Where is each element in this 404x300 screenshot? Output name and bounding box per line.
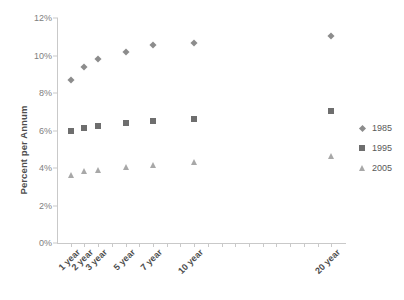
x-axis-tick-mark: [84, 243, 85, 247]
x-axis-tick-mark: [208, 243, 209, 247]
data-point-1985-5y: [122, 48, 129, 55]
x-axis-tick-mark: [139, 243, 140, 247]
y-axis-tick-label: 2%: [18, 201, 52, 211]
y-axis-tick-label: 8%: [18, 88, 52, 98]
data-point-1995-1y: [68, 128, 74, 134]
data-point-2005-5y: [123, 164, 129, 170]
x-axis-tick-mark: [222, 243, 223, 247]
chart-legend: 1985 1995 2005: [356, 118, 392, 178]
data-point-1995-5y: [123, 120, 129, 126]
legend-label: 2005: [372, 163, 392, 173]
data-point-1995-20y: [328, 108, 334, 114]
x-axis-tick-mark: [331, 243, 332, 247]
data-point-1995-2y: [81, 125, 87, 131]
y-axis-tick-label: 0%: [18, 238, 52, 248]
x-axis-tick-mark: [194, 243, 195, 247]
x-axis-tick-mark: [276, 243, 277, 247]
yield-curve-scatter-chart: Percent per Annum 0%2%4%6%8%10%12% 1 yea…: [0, 0, 404, 300]
legend-item-1995[interactable]: 1995: [356, 138, 392, 158]
square-icon: [356, 142, 368, 154]
data-point-1995-10y: [191, 116, 197, 122]
data-point-1985-1y: [67, 76, 74, 83]
legend-item-1985[interactable]: 1985: [356, 118, 392, 138]
y-axis-tick-label: 6%: [18, 126, 52, 136]
x-axis-tick-mark: [98, 243, 99, 247]
data-point-1985-2y: [81, 63, 88, 70]
x-axis-label-20-year: 20 year: [313, 247, 342, 276]
triangle-icon: [356, 162, 368, 174]
data-point-1985-20y: [328, 32, 335, 39]
data-point-2005-2y: [81, 168, 87, 174]
x-axis-tick-mark: [112, 243, 113, 247]
x-axis-line: [57, 243, 346, 244]
x-axis-tick-mark: [126, 243, 127, 247]
data-point-1995-7y: [150, 118, 156, 124]
y-axis-tick-label: 12%: [18, 13, 52, 23]
x-axis-tick-mark: [71, 243, 72, 247]
x-axis-tick-mark: [167, 243, 168, 247]
diamond-icon: [356, 122, 368, 134]
data-point-1985-7y: [149, 42, 156, 49]
x-axis-tick-mark: [235, 243, 236, 247]
data-point-2005-1y: [68, 172, 74, 178]
y-axis-tick-label: 10%: [18, 51, 52, 61]
data-points-layer: [57, 18, 345, 243]
x-axis-tick-mark: [180, 243, 181, 247]
data-point-2005-3y: [95, 167, 101, 173]
data-point-1985-10y: [191, 40, 198, 47]
x-axis-tick-mark: [304, 243, 305, 247]
data-point-1985-3y: [95, 56, 102, 63]
x-axis-tick-mark: [318, 243, 319, 247]
legend-label: 1985: [372, 123, 392, 133]
x-axis-tick-mark: [153, 243, 154, 247]
data-point-1995-3y: [95, 123, 101, 129]
x-axis-tick-mark: [290, 243, 291, 247]
x-axis-label-5-year: 5 year: [111, 247, 136, 272]
y-axis-tick-label: 4%: [18, 163, 52, 173]
legend-item-2005[interactable]: 2005: [356, 158, 392, 178]
x-axis-label-10-year: 10 year: [176, 247, 205, 276]
x-axis-tick-mark: [249, 243, 250, 247]
legend-label: 1995: [372, 143, 392, 153]
x-axis-tick-mark: [263, 243, 264, 247]
x-axis-label-7-year: 7 year: [139, 247, 164, 272]
data-point-2005-7y: [150, 162, 156, 168]
data-point-2005-10y: [191, 159, 197, 165]
data-point-2005-20y: [328, 153, 334, 159]
